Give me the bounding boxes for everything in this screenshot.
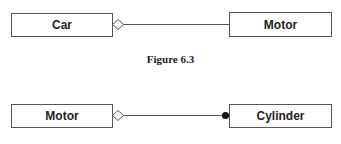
class-box-cylinder: Cylinder: [229, 104, 332, 128]
class-label: Cylinder: [256, 109, 304, 123]
association-motor-cylinder: [113, 111, 230, 121]
class-box-motor: Motor: [11, 104, 113, 128]
class-label: Motor: [45, 109, 78, 123]
association-car-motor: [113, 20, 230, 30]
class-label: Car: [52, 18, 72, 32]
class-box-motor: Motor: [229, 12, 332, 37]
class-box-car: Car: [11, 13, 113, 37]
figure-caption: Figure 6.3: [0, 53, 341, 65]
open-diamond-icon: [113, 20, 124, 30]
open-diamond-icon: [113, 111, 124, 121]
class-label: Motor: [264, 18, 297, 32]
diagram-canvas: Car Motor Figure 6.3 Motor Cylinder: [0, 0, 341, 144]
